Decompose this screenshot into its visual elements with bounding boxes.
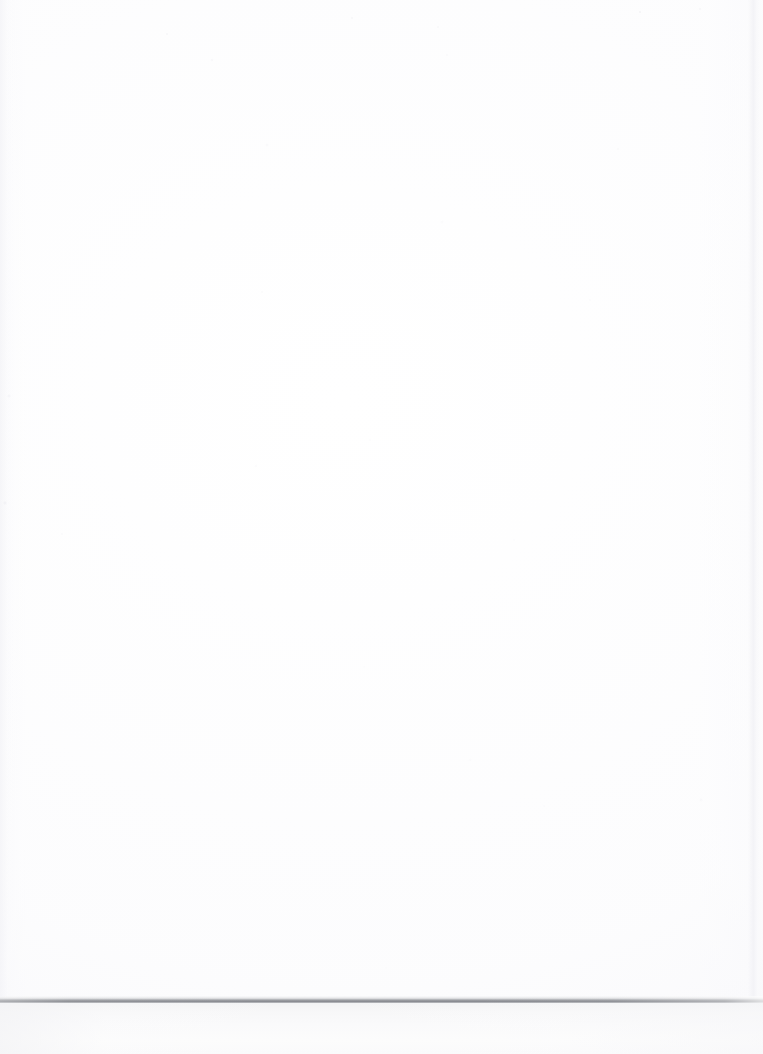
scanned-document-page xyxy=(0,0,763,1054)
blank-page-sheet xyxy=(0,0,763,1000)
scanner-background-strip xyxy=(0,1003,763,1054)
